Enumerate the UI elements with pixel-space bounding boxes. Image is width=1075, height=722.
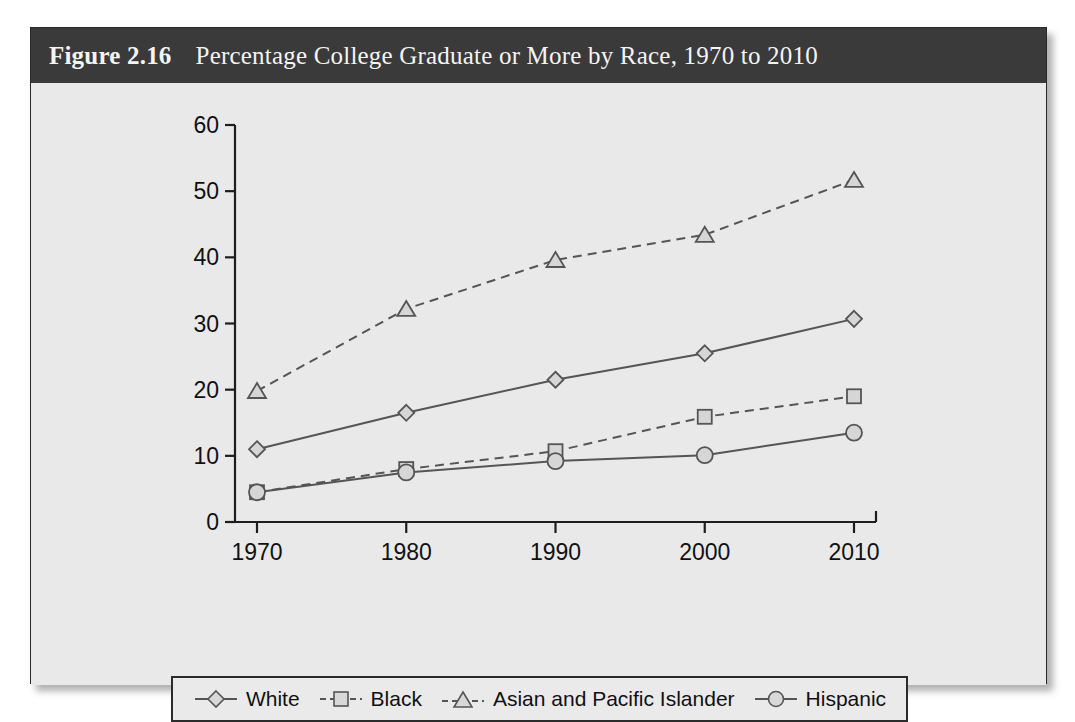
legend-label-asian-pacific-islander: Asian and Pacific Islander: [493, 687, 735, 711]
legend-label-hispanic: Hispanic: [806, 687, 887, 711]
y-tick-label: 10: [193, 443, 219, 469]
legend-item-white[interactable]: White: [193, 687, 300, 711]
plot-area: 010203040506019701980199020002010: [173, 115, 888, 577]
x-tick-label: 1970: [231, 539, 282, 565]
chart-body: 010203040506019701980199020002010 White …: [31, 83, 1046, 685]
figure-header-text: Figure 2.16Percentage College Graduate o…: [31, 42, 818, 70]
legend-item-black[interactable]: Black: [318, 687, 422, 711]
data-point-marker: [398, 405, 414, 421]
x-tick-label: 1980: [381, 539, 432, 565]
circle-marker-icon: [753, 689, 799, 709]
square-marker-icon: [318, 689, 364, 709]
data-point-marker: [845, 172, 863, 187]
y-tick-label: 20: [193, 377, 219, 403]
figure-panel: Figure 2.16Percentage College Graduate o…: [30, 27, 1047, 684]
line-chart-svg: 010203040506019701980199020002010: [173, 115, 888, 577]
figure-header-bar: Figure 2.16Percentage College Graduate o…: [31, 28, 1046, 83]
legend-item-hispanic[interactable]: Hispanic: [753, 687, 887, 711]
data-point-marker: [696, 227, 714, 242]
data-point-marker: [847, 389, 861, 403]
data-point-marker: [846, 311, 862, 327]
data-point-marker: [249, 484, 265, 500]
data-point-marker: [697, 345, 713, 361]
x-tick-label: 2010: [828, 539, 879, 565]
legend-label-black: Black: [371, 687, 422, 711]
data-point-marker: [398, 464, 414, 480]
figure-title: Percentage College Graduate or More by R…: [196, 42, 818, 69]
series-line-asian-and-pacific-islander: [257, 180, 854, 391]
diamond-marker-icon: [193, 689, 239, 709]
chart-legend: White Black Asian and Pacific Islander: [171, 676, 908, 722]
y-tick-label: 0: [206, 509, 219, 535]
y-tick-label: 50: [193, 178, 219, 204]
legend-item-asian-pacific-islander[interactable]: Asian and Pacific Islander: [440, 687, 735, 711]
data-point-marker: [249, 441, 265, 457]
y-tick-label: 30: [193, 311, 219, 337]
data-point-marker: [548, 453, 564, 469]
data-point-marker: [248, 383, 266, 398]
x-tick-label: 2000: [679, 539, 730, 565]
x-tick-label: 1990: [530, 539, 581, 565]
y-tick-label: 40: [193, 244, 219, 270]
figure-number: Figure 2.16: [49, 42, 172, 69]
data-point-marker: [846, 425, 862, 441]
data-point-marker: [697, 447, 713, 463]
data-point-marker: [397, 301, 415, 316]
legend-label-white: White: [246, 687, 300, 711]
data-point-marker: [698, 410, 712, 424]
triangle-marker-icon: [440, 689, 486, 709]
data-point-marker: [548, 372, 564, 388]
y-tick-label: 60: [193, 115, 219, 138]
